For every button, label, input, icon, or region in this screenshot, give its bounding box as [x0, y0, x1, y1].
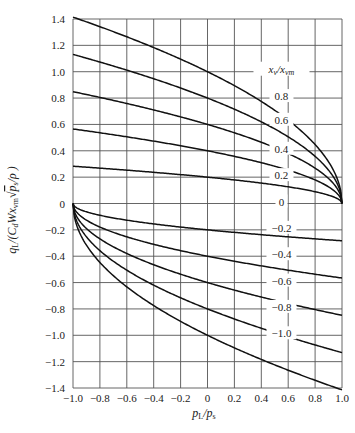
y-tick-label: 0 — [60, 198, 66, 210]
y-tick-label: −0.4 — [45, 250, 65, 262]
curve-label: −0.4 — [271, 248, 291, 260]
y-tick-label: −1.2 — [45, 356, 65, 368]
x-tick-label: 0 — [205, 392, 211, 404]
x-tick-label: −1.0 — [63, 392, 83, 404]
x-tick-label: 0.4 — [254, 392, 268, 404]
y-axis-ticks: 1.41.21.00.80.60.40.20−0.2−0.4−0.6−0.8−1… — [45, 13, 65, 394]
y-tick-label: −1.0 — [45, 329, 65, 341]
y-axis-title: qL/(CdWxvm√ps/ρ ) — [5, 166, 20, 254]
y-tick-label: −0.8 — [45, 303, 65, 315]
curve-label: 0.6 — [275, 114, 289, 126]
y-tick-label: 0.8 — [51, 92, 65, 104]
svg-text:qL/(CdWxvm√ps/ρ ): qL/(CdWxvm√ps/ρ ) — [5, 166, 20, 254]
curve-label: −1.0 — [271, 327, 291, 339]
curve-label: 0.2 — [275, 169, 289, 181]
y-tick-label: −0.6 — [45, 277, 65, 289]
x-axis-ticks: −1.0−0.8−0.6−0.4−0.200.20.40.60.81.0 — [63, 392, 349, 404]
y-tick-label: 0.2 — [51, 171, 65, 183]
y-tick-label: 1.4 — [51, 13, 65, 25]
curve-label: 0.4 — [275, 143, 289, 155]
y-tick-label: 0.4 — [51, 145, 65, 157]
x-tick-label: 0.6 — [281, 392, 295, 404]
y-tick-label: 1.2 — [51, 39, 65, 51]
x-tick-label: 0.8 — [308, 392, 322, 404]
chart: 1.41.21.00.80.60.40.20−0.2−0.4−0.6−0.8−1… — [0, 0, 355, 433]
x-tick-label: 0.2 — [228, 392, 242, 404]
x-tick-label: −0.2 — [171, 392, 191, 404]
y-tick-label: 1.0 — [51, 66, 65, 78]
curve-label: 0.8 — [275, 90, 289, 102]
curve-label: −0.2 — [271, 222, 291, 234]
x-axis-title: pL/ps — [191, 406, 215, 421]
curve-label: −0.6 — [271, 275, 291, 287]
x-tick-label: −0.8 — [90, 392, 110, 404]
x-tick-label: −0.4 — [144, 392, 164, 404]
curve-label: −0.8 — [271, 301, 291, 313]
x-tick-label: 1.0 — [335, 392, 349, 404]
x-tick-label: −0.6 — [117, 392, 137, 404]
y-tick-label: 0.6 — [51, 118, 65, 130]
y-tick-label: −0.2 — [45, 224, 65, 236]
curve-label: 0 — [279, 196, 285, 208]
